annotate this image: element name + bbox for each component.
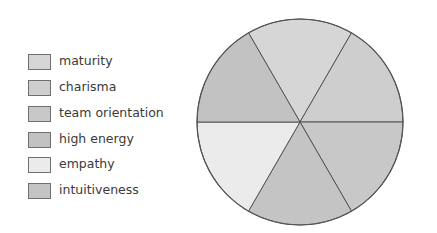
pie-chart [0,0,437,233]
pie-slices [197,19,403,225]
